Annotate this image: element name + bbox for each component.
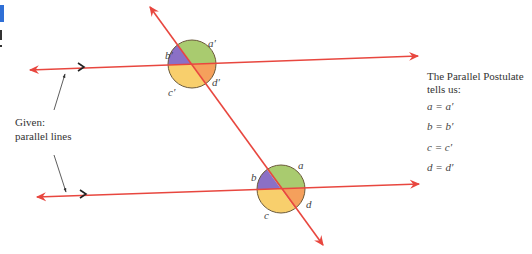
leader-arrow-lower <box>54 155 66 192</box>
postulate-subtitle: tells us: <box>427 83 461 96</box>
label-b-prime: b′ <box>165 50 173 61</box>
label-d-prime: d′ <box>212 77 220 88</box>
equation-d: d = d′ <box>427 162 453 173</box>
upper-parallel-line <box>30 56 418 70</box>
label-a: a <box>298 160 304 171</box>
label-d: d <box>306 199 312 210</box>
label-c-prime: c′ <box>168 87 175 98</box>
label-c: c <box>264 210 269 221</box>
parallel-mark-upper-icon <box>78 63 84 71</box>
lower-parallel-line <box>37 184 419 197</box>
equation-c: c = c′ <box>427 142 452 153</box>
equation-a: a = a′ <box>427 101 453 112</box>
parallel-mark-lower-icon <box>80 190 86 198</box>
label-b: b <box>251 172 257 183</box>
parallel-lines-label: parallel lines <box>15 130 72 143</box>
equation-b: b = b′ <box>427 121 453 132</box>
given-label: Given: <box>15 116 45 129</box>
diagram-canvas: a′ b′ c′ d′ a b c d Given: parallel line… <box>0 0 532 254</box>
leader-arrow-upper <box>54 74 65 110</box>
postulate-title: The Parallel Postulate <box>427 70 524 83</box>
transversal-line <box>150 7 323 245</box>
label-a-prime: a′ <box>208 38 216 49</box>
